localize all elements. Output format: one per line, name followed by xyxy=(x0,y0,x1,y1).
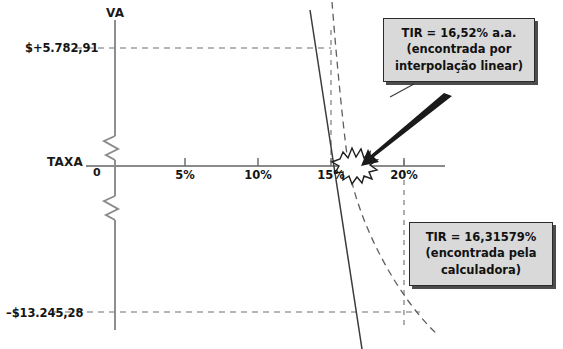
y-label-positive-value: $+5.782,91 xyxy=(25,41,98,55)
callout-calculadora: TIR = 16,31579% (encontrada pela calcula… xyxy=(409,222,553,286)
axis-break-upper-icon xyxy=(104,136,118,160)
y-axis-title: VA xyxy=(106,6,124,20)
callout-interpolacao-linear: TIR = 16,52% a.a. (encontrada por interp… xyxy=(383,18,535,82)
x-tick-label-15pct: 15% xyxy=(317,168,345,182)
callout-interpolacao-line-2: (encontrada por xyxy=(393,41,525,57)
x-axis-title: TAXA xyxy=(47,155,83,169)
callout-arrow-interpolacao xyxy=(361,93,452,166)
axis-break-lower-icon xyxy=(104,196,118,220)
callout-interpolacao-line-1: TIR = 16,52% a.a. xyxy=(393,25,525,41)
callout-interpolacao-line-3: interpolação linear) xyxy=(393,58,525,74)
callout-calculadora-line-3: calculadora) xyxy=(419,262,543,278)
x-tick-label-5pct: 5% xyxy=(175,168,195,182)
callout-tail-interpolacao xyxy=(390,84,414,97)
x-tick-label-20pct: 20% xyxy=(390,168,418,182)
npv-irr-figure: VA TAXA 0 $+5.782,91 –$13.245,28 5% 10% … xyxy=(0,0,563,349)
callout-calculadora-line-2: (encontrada pela xyxy=(419,245,543,261)
callout-calculadora-line-1: TIR = 16,31579% xyxy=(419,229,543,245)
x-tick-label-10pct: 10% xyxy=(244,168,272,182)
origin-label: 0 xyxy=(93,166,101,179)
y-label-negative-value: –$13.245,28 xyxy=(6,306,83,320)
